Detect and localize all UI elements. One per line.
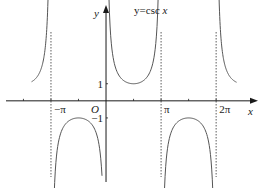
- x-tick-label: 2π: [219, 103, 231, 115]
- x-tick-label: π: [164, 103, 170, 115]
- asymptote-lines: [51, 32, 216, 177]
- csc-branch: [32, 0, 49, 82]
- csc-function-plot: x y O −ππ2π1−1 y=csc x: [0, 0, 262, 188]
- x-tick-label: −π: [54, 103, 66, 115]
- function-label-x: x: [162, 4, 168, 16]
- y-tick-label: −1: [91, 112, 103, 124]
- y-axis-arrow-icon: [103, 5, 109, 13]
- csc-curve-branches: [32, 0, 237, 188]
- csc-branch: [53, 118, 102, 188]
- x-axis-label: x: [247, 105, 253, 117]
- y-axis-label: y: [93, 7, 99, 19]
- csc-branch: [164, 118, 213, 188]
- function-label-y: y=csc: [134, 4, 163, 16]
- y-tick-label: 1: [98, 78, 104, 90]
- csc-branch: [219, 0, 237, 82]
- function-label: y=csc x: [134, 4, 168, 16]
- x-axis-arrow-icon: [250, 98, 258, 104]
